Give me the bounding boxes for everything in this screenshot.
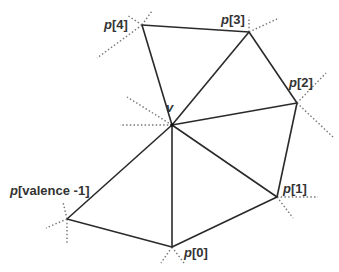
edge-v-p2 xyxy=(172,103,297,125)
edge-v-pv xyxy=(67,125,172,219)
dotted-stub-p1 xyxy=(277,197,293,218)
dotted-stub-p0 xyxy=(172,247,184,263)
center-vertex-point xyxy=(170,123,174,127)
edge-p0-p1 xyxy=(172,197,277,247)
dotted-stub-pv xyxy=(46,219,67,228)
dotted-stub-p0 xyxy=(161,247,172,263)
dotted-stub-pv xyxy=(63,202,67,219)
dotted-stub-p2 xyxy=(297,103,333,137)
dotted-stub-p4 xyxy=(127,15,142,25)
mesh-edges xyxy=(67,25,297,247)
neighbor-label-p2: p[2] xyxy=(288,75,313,90)
dotted-stub-p3 xyxy=(249,19,277,32)
vertex-labels: vp[0]p[1]p[2]p[3]p[4]p[valence -1] xyxy=(9,12,313,260)
neighbor-label-p3: p[3] xyxy=(220,12,245,27)
dotted-stub-p4 xyxy=(142,11,152,25)
one-ring-diagram: vp[0]p[1]p[2]p[3]p[4]p[valence -1] xyxy=(0,0,339,272)
edge-p2-p3 xyxy=(249,32,297,103)
edge-v-p1 xyxy=(172,125,277,197)
neighbor-label-p1: p[1] xyxy=(282,181,307,196)
neighbor-label-p0: p[0] xyxy=(183,245,208,260)
edge-pv-p0 xyxy=(67,219,172,247)
center-vertex-label: v xyxy=(166,100,174,115)
edge-v-p3 xyxy=(172,32,249,125)
neighbor-label-p4: p[4] xyxy=(103,17,128,32)
neighbor-label-pv: p[valence -1] xyxy=(9,183,90,198)
